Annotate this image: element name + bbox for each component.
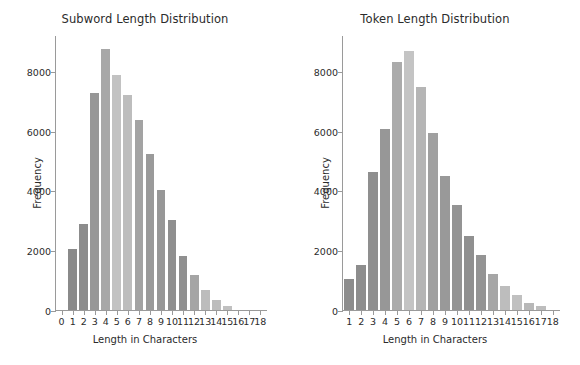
bar (416, 87, 426, 310)
x-tick-mark-0-12 (194, 311, 195, 315)
x-tick-label-1-4: 5 (394, 316, 400, 327)
x-tick-mark-0-15 (227, 311, 228, 315)
bar (157, 190, 166, 310)
x-tick-label-0-3: 3 (92, 316, 98, 327)
y-tick-mark (51, 132, 56, 133)
x-tick-mark-0-18 (260, 311, 261, 315)
chart-title-right: Token Length Distribution (290, 12, 580, 26)
x-tick-label-1-5: 6 (406, 316, 412, 327)
x-tick-mark-0-17 (249, 311, 250, 315)
x-tick-label-1-11: 12 (475, 316, 487, 327)
x-axis-label-right: Length in Characters (290, 334, 580, 345)
bar (190, 275, 199, 310)
x-tick-label-1-9: 10 (451, 316, 463, 327)
y-tick-mark (51, 191, 56, 192)
x-tick-mark-0-0 (62, 311, 63, 315)
bar (380, 129, 390, 310)
bar (476, 255, 486, 310)
x-axis-line-right (342, 310, 560, 311)
bar (464, 236, 474, 310)
y-tick-mark (51, 311, 56, 312)
x-tick-label-0-0: 0 (59, 316, 65, 327)
x-tick-label-0-2: 2 (81, 316, 87, 327)
x-tick-mark-1-13 (505, 311, 506, 315)
bar (112, 75, 121, 310)
bar (440, 176, 450, 310)
x-tick-mark-1-12 (493, 311, 494, 315)
y-tick-label: 0 (332, 306, 338, 317)
x-tick-label-1-3: 4 (382, 316, 388, 327)
x-tick-label-1-2: 3 (370, 316, 376, 327)
x-tick-label-0-1: 1 (70, 316, 76, 327)
y-tick-mark (338, 191, 343, 192)
y-tick-label: 8000 (27, 66, 51, 77)
x-tick-label-0-7: 7 (136, 316, 142, 327)
y-tick-mark (338, 72, 343, 73)
chart-title-left: Subword Length Distribution (0, 12, 290, 26)
x-tick-mark-0-14 (216, 311, 217, 315)
x-tick-label-1-7: 8 (430, 316, 436, 327)
x-tick-mark-1-17 (553, 311, 554, 315)
y-tick-mark (51, 251, 56, 252)
x-tick-mark-1-5 (409, 311, 410, 315)
bar (392, 62, 402, 310)
bar (68, 249, 77, 310)
y-tick-mark (338, 311, 343, 312)
x-tick-mark-1-10 (469, 311, 470, 315)
x-tick-mark-1-15 (529, 311, 530, 315)
x-tick-label-1-13: 14 (499, 316, 511, 327)
x-tick-label-1-6: 7 (418, 316, 424, 327)
bar (428, 133, 438, 310)
bar (404, 51, 414, 310)
x-tick-mark-1-16 (541, 311, 542, 315)
bar (452, 205, 462, 310)
bar (524, 303, 534, 310)
x-tick-label-0-9: 9 (158, 316, 164, 327)
x-tick-mark-0-2 (84, 311, 85, 315)
bar (212, 300, 221, 310)
x-axis-label-left: Length in Characters (0, 334, 290, 345)
x-tick-label-1-15: 16 (523, 316, 535, 327)
bar (90, 93, 99, 310)
bar (344, 279, 354, 310)
x-tick-label-1-17: 18 (547, 316, 559, 327)
bar (201, 290, 210, 310)
x-tick-label-1-14: 15 (511, 316, 523, 327)
x-tick-mark-1-0 (349, 311, 350, 315)
y-tick-label: 6000 (27, 126, 51, 137)
bar (146, 154, 155, 310)
x-tick-mark-1-1 (361, 311, 362, 315)
y-tick-label: 4000 (314, 186, 338, 197)
x-tick-mark-1-8 (445, 311, 446, 315)
x-tick-mark-0-4 (106, 311, 107, 315)
x-tick-mark-0-7 (139, 311, 140, 315)
y-axis-line-right (342, 36, 343, 311)
x-tick-label-1-1: 2 (358, 316, 364, 327)
bar (79, 224, 88, 310)
x-tick-label-0-4: 4 (103, 316, 109, 327)
plot-area-right: 0200040006000800012345678910111213141516… (342, 36, 560, 311)
x-tick-mark-1-6 (421, 311, 422, 315)
x-tick-mark-0-1 (73, 311, 74, 315)
x-tick-mark-0-8 (150, 311, 151, 315)
x-tick-mark-0-3 (95, 311, 96, 315)
plot-area-left: 0200040006000800001234567891011121314151… (55, 36, 267, 311)
x-tick-mark-0-5 (117, 311, 118, 315)
x-tick-label-1-12: 13 (487, 316, 499, 327)
bar (223, 306, 232, 310)
x-tick-label-0-18: 18 (254, 316, 266, 327)
y-tick-mark (51, 72, 56, 73)
x-tick-mark-1-2 (373, 311, 374, 315)
y-tick-label: 4000 (27, 186, 51, 197)
panel-subword-length-distribution: Subword Length Distribution Frequency 02… (0, 0, 290, 365)
x-tick-mark-0-13 (205, 311, 206, 315)
x-tick-label-0-6: 6 (125, 316, 131, 327)
bar (135, 120, 144, 310)
y-tick-label: 2000 (27, 246, 51, 257)
bar (168, 220, 177, 310)
bar (488, 274, 498, 310)
y-axis-line-left (55, 36, 56, 311)
x-tick-mark-0-9 (161, 311, 162, 315)
bar (512, 295, 522, 310)
y-tick-label: 0 (45, 306, 51, 317)
